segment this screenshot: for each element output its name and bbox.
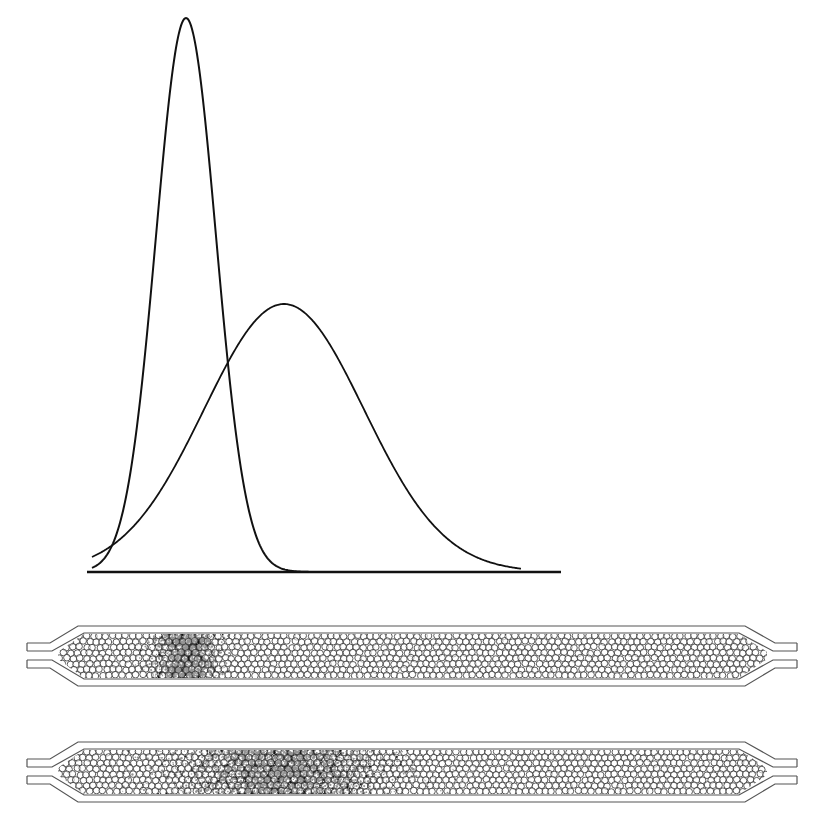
packed-columns (0, 0, 821, 830)
packed-column-early (27, 626, 797, 686)
packed-column-late (27, 742, 797, 802)
column-packing (56, 632, 771, 679)
column-packing (56, 748, 771, 795)
figure: Chromatographic band broadening: elution… (0, 0, 821, 830)
